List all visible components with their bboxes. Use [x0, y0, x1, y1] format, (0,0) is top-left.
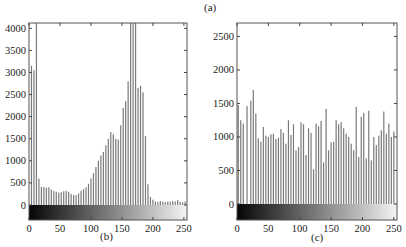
histogram-bar — [361, 117, 362, 204]
histogram-bar — [333, 142, 334, 204]
x-tick-label: 200 — [355, 223, 371, 234]
histogram-bar — [358, 157, 359, 204]
histogram-bar — [258, 138, 259, 204]
histogram-bar — [351, 144, 352, 204]
histogram-bar — [393, 132, 394, 204]
histogram-bar — [243, 124, 244, 204]
histogram-bar — [331, 142, 332, 204]
histogram-bar — [260, 142, 261, 204]
histogram-bar — [356, 107, 357, 204]
histogram-bar — [305, 155, 306, 204]
y-tick-label: 2000 — [213, 64, 234, 75]
histogram-c-canvas: 05001000150020002500050100150200250 — [0, 0, 406, 247]
histogram-bar — [323, 162, 324, 204]
histogram-bar — [371, 160, 372, 204]
histogram-bar — [343, 128, 344, 204]
histogram-bar — [328, 150, 329, 204]
histogram-bar — [283, 133, 284, 204]
histogram-bar — [391, 137, 392, 204]
histogram-bar — [238, 105, 239, 204]
histogram-bar — [303, 124, 304, 204]
histogram-bar — [265, 136, 266, 204]
histogram-bar — [378, 136, 379, 204]
histogram-bar — [300, 122, 301, 204]
histogram-bar — [353, 150, 354, 204]
histogram-bar — [325, 109, 326, 204]
histogram-bar — [318, 126, 319, 204]
y-tick-label: 500 — [218, 165, 234, 176]
x-tick-label: 100 — [292, 223, 308, 234]
histogram-bar — [293, 124, 294, 204]
grayscale-colorbar — [237, 204, 397, 220]
histogram-bar — [285, 144, 286, 204]
y-tick-label: 2500 — [213, 31, 234, 42]
histogram-bar — [376, 145, 377, 204]
y-tick-label: 1000 — [213, 131, 234, 142]
x-tick-label: 150 — [323, 223, 339, 234]
y-tick-label: 0 — [229, 199, 234, 210]
histogram-bar — [368, 111, 369, 204]
histogram-bar — [278, 138, 279, 204]
histogram-bar — [246, 106, 247, 204]
histogram-bar — [386, 134, 387, 204]
histogram-bar — [310, 133, 311, 204]
histogram-bar — [388, 124, 389, 204]
histogram-bar — [366, 158, 367, 204]
histogram-bar — [253, 90, 254, 204]
histogram-bar — [298, 147, 299, 204]
histogram-bar — [320, 121, 321, 204]
histogram-bar — [270, 134, 271, 204]
histogram-bar — [383, 111, 384, 204]
histogram-bar — [288, 120, 289, 204]
histogram-bar — [363, 113, 364, 204]
histogram-bar — [373, 137, 374, 204]
histogram-bar — [381, 130, 382, 204]
histogram-bar — [290, 135, 291, 204]
histogram-bar — [263, 127, 264, 204]
histogram-bar — [273, 134, 274, 204]
histogram-bar — [295, 150, 296, 204]
x-tick-label: 50 — [263, 223, 274, 234]
histogram-bar — [338, 124, 339, 204]
histogram-bar — [341, 122, 342, 204]
histogram-bar — [346, 134, 347, 204]
histogram-bar — [313, 169, 314, 204]
histogram-bar — [280, 129, 281, 204]
histogram-bar — [348, 137, 349, 204]
histogram-bar — [315, 124, 316, 204]
histogram-bar — [240, 120, 241, 204]
histogram-bar — [308, 128, 309, 204]
histogram-bar — [275, 139, 276, 204]
histogram-c: 05001000150020002500050100150200250 — [0, 0, 406, 247]
histogram-bar — [268, 137, 269, 204]
histogram-bar — [255, 114, 256, 205]
bars — [238, 90, 395, 204]
x-tick-label: 250 — [386, 223, 402, 234]
histogram-bar — [336, 120, 337, 204]
y-tick-label: 1500 — [213, 98, 234, 109]
caption-c: (c) — [311, 231, 323, 243]
histogram-bar — [250, 101, 251, 204]
x-tick-label: 0 — [234, 223, 239, 234]
